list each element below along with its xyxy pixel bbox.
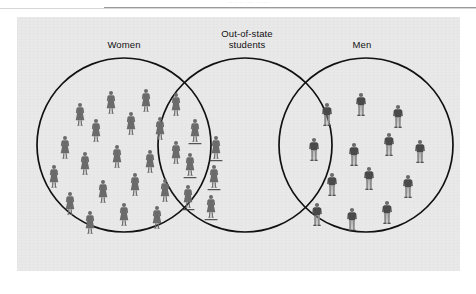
set-label-line: Men xyxy=(327,39,397,50)
people-figures-layer xyxy=(50,89,425,234)
person-icon-woman xyxy=(142,89,151,112)
person-underline-mark xyxy=(208,189,221,190)
person-icon-man xyxy=(403,175,413,198)
set-label-men: Men xyxy=(327,39,397,50)
person-icon-man xyxy=(415,140,425,163)
person-underline-mark xyxy=(189,143,202,144)
person-icon-man xyxy=(327,173,337,196)
person-icon-woman xyxy=(61,136,70,159)
person-icon-woman xyxy=(99,180,108,203)
venn-circle-out-of-state-students xyxy=(158,58,332,232)
person-underline-mark xyxy=(182,209,195,210)
page-top-text-remnant: ·· ···· ··· ······ xyxy=(228,0,476,6)
person-underline-mark xyxy=(184,177,197,178)
person-icon-woman-underlined xyxy=(189,119,202,144)
person-icon-woman xyxy=(113,145,122,168)
person-icon-woman xyxy=(131,173,140,196)
set-label-line: Out-of-state xyxy=(202,28,292,39)
set-label-out-of-state-students: Out-of-statestudents xyxy=(202,28,292,50)
person-icon-woman-underlined xyxy=(208,165,221,190)
person-icon-woman xyxy=(92,119,101,142)
page-horizontal-rule-secondary xyxy=(0,8,476,9)
person-icon-woman xyxy=(146,150,155,173)
person-icon-man xyxy=(347,208,357,231)
venn-circle-men xyxy=(279,58,453,232)
person-icon-man xyxy=(356,93,366,116)
venn-diagram-figure: Women Out-of-statestudents Men xyxy=(17,17,460,271)
person-icon-woman xyxy=(50,165,59,188)
person-icon-woman xyxy=(120,203,129,226)
set-label-line: students xyxy=(202,39,292,50)
person-underline-mark xyxy=(205,219,218,220)
person-icon-man xyxy=(382,201,392,224)
person-icon-woman xyxy=(107,91,116,114)
person-icon-woman xyxy=(127,112,136,135)
person-icon-man xyxy=(309,138,319,161)
venn-diagram-canvas xyxy=(17,17,460,271)
person-underline-mark xyxy=(210,160,223,161)
person-icon-man xyxy=(384,133,394,156)
page-canvas: ·· ···· ··· ······ Women Out-of-statestu… xyxy=(0,0,476,294)
person-icon-man xyxy=(393,105,403,128)
person-icon-man xyxy=(364,167,374,190)
person-icon-woman xyxy=(86,211,95,234)
person-icon-woman xyxy=(81,152,90,175)
person-icon-woman-underlined xyxy=(205,195,218,220)
set-label-women: Women xyxy=(89,39,159,50)
person-icon-woman xyxy=(161,179,170,202)
set-label-line: Women xyxy=(89,39,159,50)
person-icon-woman xyxy=(156,117,165,140)
person-icon-woman-underlined xyxy=(184,153,197,178)
person-icon-woman xyxy=(76,103,85,126)
person-icon-woman xyxy=(172,141,181,164)
person-icon-man xyxy=(349,143,359,166)
